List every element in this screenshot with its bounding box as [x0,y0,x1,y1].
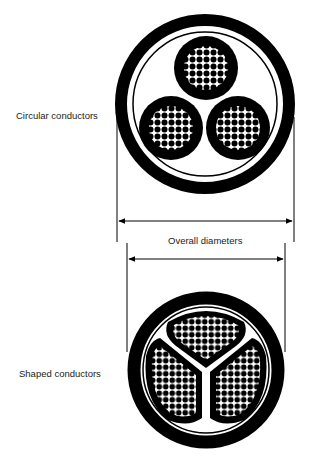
core-right [206,96,270,160]
circular-conductor-cable [121,20,289,188]
core-top [174,36,238,100]
cable-diagram [0,0,311,467]
shaped-conductor-cable [134,298,278,442]
core-left [139,96,203,160]
